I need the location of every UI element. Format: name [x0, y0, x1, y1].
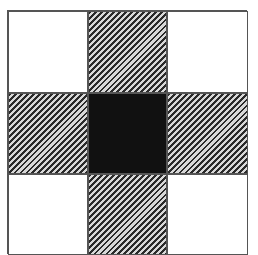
- cell-bottom-center-hatched: [88, 174, 167, 255]
- cell-middle-right-hatched: [167, 93, 248, 174]
- cross-pattern-grid: [7, 10, 247, 254]
- cell-bottom-left-white: [8, 174, 88, 255]
- cell-bottom-right-white: [167, 174, 248, 255]
- cell-center-black: [88, 93, 167, 174]
- cell-top-center-hatched: [88, 11, 167, 93]
- cell-top-right-white: [167, 11, 248, 93]
- cell-top-left-white: [8, 11, 88, 93]
- cell-middle-left-hatched: [8, 93, 88, 174]
